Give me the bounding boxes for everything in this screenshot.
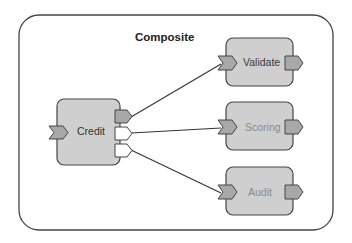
component-validate[interactable]: Validate: [218, 38, 303, 86]
component-label: Scoring: [245, 121, 281, 133]
component-label: Audit: [248, 186, 272, 198]
component-credit[interactable]: Credit: [49, 99, 132, 165]
component-label: Validate: [243, 56, 280, 68]
composite-diagram: Composite Credit Validate Scoring Audit: [0, 0, 352, 243]
composite-title: Composite: [135, 31, 194, 43]
component-label: Credit: [77, 125, 105, 137]
component-audit[interactable]: Audit: [218, 167, 303, 215]
component-scoring[interactable]: Scoring: [218, 102, 303, 150]
